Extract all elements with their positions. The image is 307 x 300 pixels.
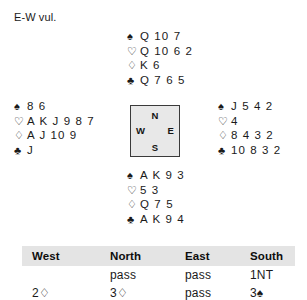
hand-south-clubs-row: ♣ A K 9 4 [127, 212, 185, 227]
bid-south: 3♠ [240, 286, 295, 300]
spade-icon: ♠ [218, 99, 231, 114]
hand-south-hearts-row: ♡ 5 3 [127, 183, 185, 198]
hand-west-clubs: J [27, 143, 34, 158]
diamond-icon: ♢ [127, 197, 140, 212]
diamond-icon: ♢ [14, 128, 27, 143]
diamond-icon: ♢ [218, 128, 231, 143]
bid-west: 2♢ [22, 286, 100, 300]
compass-west-label: W [136, 125, 145, 136]
bidding-header-west: West [22, 250, 100, 262]
heart-icon: ♡ [218, 114, 231, 129]
hand-north-clubs-row: ♣ Q 7 6 5 [127, 73, 193, 88]
hand-west-diamonds: A J 10 9 [27, 128, 77, 143]
bidding-row: pass pass 1NT [22, 266, 295, 284]
vulnerability-label: E-W vul. [14, 11, 56, 23]
bid-east: pass [175, 286, 240, 300]
hand-north-spades: Q 10 7 [140, 29, 181, 44]
hand-south: ♠ A K 9 3 ♡ 5 3 ♢ Q 7 5 ♣ A K 9 4 [127, 168, 185, 226]
hand-east-diamonds-row: ♢ 8 4 3 2 [218, 128, 281, 143]
hand-north-spades-row: ♠ Q 10 7 [127, 29, 193, 44]
club-icon: ♣ [14, 143, 27, 158]
hand-south-spades: A K 9 3 [140, 168, 185, 183]
hand-west-hearts-row: ♡ A K J 9 8 7 [14, 114, 95, 129]
hand-south-hearts: 5 3 [140, 183, 159, 198]
bid-north: 3♢ [100, 286, 175, 300]
hand-north-hearts-row: ♡ Q 10 6 2 [127, 44, 193, 59]
hand-east-spades-row: ♠ J 5 4 2 [218, 99, 281, 114]
hand-north-diamonds-row: ♢ K 6 [127, 58, 193, 73]
bidding-table-header: West North East South [22, 246, 295, 266]
club-icon: ♣ [218, 143, 231, 158]
hand-south-clubs: A K 9 4 [140, 212, 185, 227]
bidding-header-north: North [100, 250, 175, 262]
hand-north: ♠ Q 10 7 ♡ Q 10 6 2 ♢ K 6 ♣ Q 7 6 5 [127, 29, 193, 87]
heart-icon: ♡ [14, 114, 27, 129]
spade-icon: ♠ [127, 29, 140, 44]
bid-south: 1NT [240, 268, 295, 282]
club-icon: ♣ [127, 73, 140, 88]
bidding-row: 2♢ 3♢ pass 3♠ [22, 284, 295, 300]
hand-west-hearts: A K J 9 8 7 [27, 114, 95, 129]
hand-west-diamonds-row: ♢ A J 10 9 [14, 128, 95, 143]
compass-box: N W E S [130, 105, 180, 157]
hand-north-hearts: Q 10 6 2 [140, 44, 193, 59]
hand-east-hearts-row: ♡ 4 [218, 114, 281, 129]
hand-west-clubs-row: ♣ J [14, 143, 95, 158]
hand-north-diamonds: K 6 [140, 58, 161, 73]
bidding-table: West North East South pass pass 1NT 2♢ 3… [22, 246, 295, 300]
hand-east-hearts: 4 [231, 114, 239, 129]
hand-south-diamonds-row: ♢ Q 7 5 [127, 197, 185, 212]
hand-east-clubs-row: ♣ 10 8 3 2 [218, 143, 281, 158]
compass-east-label: E [167, 125, 174, 136]
hand-east-clubs: 10 8 3 2 [231, 143, 281, 158]
bidding-header-east: East [175, 250, 240, 262]
spade-icon: ♠ [14, 99, 27, 114]
bid-east: pass [175, 268, 240, 282]
club-icon: ♣ [127, 212, 140, 227]
hand-south-diamonds: Q 7 5 [140, 197, 174, 212]
hand-west-spades-row: ♠ 8 6 [14, 99, 95, 114]
diamond-icon: ♢ [127, 58, 140, 73]
hand-west-spades: 8 6 [27, 99, 46, 114]
hand-south-spades-row: ♠ A K 9 3 [127, 168, 185, 183]
heart-icon: ♡ [127, 44, 140, 59]
spade-icon: ♠ [127, 168, 140, 183]
hand-north-clubs: Q 7 6 5 [140, 73, 185, 88]
compass-south-label: S [152, 142, 159, 153]
hand-west: ♠ 8 6 ♡ A K J 9 8 7 ♢ A J 10 9 ♣ J [14, 99, 95, 157]
hand-east-spades: J 5 4 2 [231, 99, 273, 114]
heart-icon: ♡ [127, 183, 140, 198]
hand-east-diamonds: 8 4 3 2 [231, 128, 274, 143]
compass-north-label: N [151, 110, 158, 121]
bidding-header-south: South [240, 250, 295, 262]
bid-north: pass [100, 268, 175, 282]
hand-east: ♠ J 5 4 2 ♡ 4 ♢ 8 4 3 2 ♣ 10 8 3 2 [218, 99, 281, 157]
